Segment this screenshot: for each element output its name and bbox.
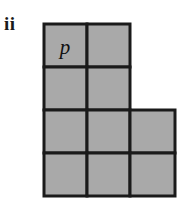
grid-cell-r4c1	[44, 153, 87, 196]
grid-cell-r2c2	[87, 67, 130, 110]
grid-cell-r3c1	[44, 110, 87, 153]
polyomino-grid-figure: p	[0, 0, 183, 210]
grid-cell-r3c3	[130, 110, 175, 153]
grid-cell-r4c3	[130, 153, 175, 196]
grid-cell-r2c1	[44, 67, 87, 110]
grid-cell-r4c2	[87, 153, 130, 196]
grid-cell-r1c2	[87, 24, 130, 67]
grid-cell-r3c2	[87, 110, 130, 153]
figure-container: ii p	[0, 0, 183, 210]
cell-label-p: p	[58, 35, 71, 59]
